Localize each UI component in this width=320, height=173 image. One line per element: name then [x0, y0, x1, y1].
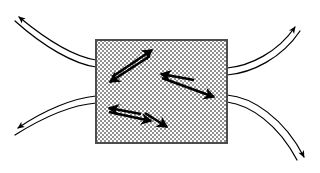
streamline-lower-right-outflow [227, 95, 304, 160]
streamline-path [19, 17, 96, 60]
streamline-upper-left-outflow [15, 17, 96, 67]
streamline-path [227, 27, 295, 68]
figure-canvas: Flow deflection around a stippled region… [0, 0, 320, 173]
diagram-svg [0, 0, 320, 173]
streamline-path [227, 31, 300, 75]
streamline-path [18, 96, 96, 128]
stippled-region [96, 40, 227, 143]
streamline-upper-right-outflow [227, 27, 300, 75]
streamline-lower-left-outflow [15, 96, 96, 135]
